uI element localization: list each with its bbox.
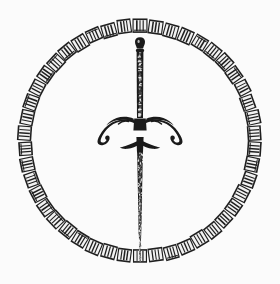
grip-wrap-mark [138,103,142,104]
blade-speckle-mark [139,189,140,190]
ring-segment [247,125,262,141]
blade-speckle-mark [139,227,140,228]
pommel [135,37,145,52]
blade-speckle-mark [140,188,141,189]
blade-speckle-mark [140,231,141,232]
blade-speckle-mark [141,153,142,155]
blade-speckle-mark [140,229,141,230]
blade-speckle-mark [140,248,141,249]
blade-speckle-mark [140,181,141,182]
blade-speckle-mark [139,184,140,185]
blade-speckle-mark [142,161,143,163]
blade-speckle-mark [142,159,143,160]
blade-speckle-mark [141,216,142,218]
grip-wrap-mark [139,74,141,75]
grip-wrap-mark [138,115,141,117]
grip-wrap-mark [139,62,142,63]
blade-speckle-mark [138,208,139,210]
blade-speckle-mark [139,224,140,225]
grip-wrap-mark [139,98,142,99]
blade-speckle-mark [140,253,141,255]
grip-wrap-mark [138,60,140,61]
grip-wrap-mark [139,75,141,76]
blade-speckle-mark [140,203,141,204]
blade-speckle-mark [140,241,141,242]
blade-speckle-mark [139,244,140,245]
blade-speckle-mark [141,214,142,215]
grip-wrap-mark [139,107,141,108]
blade-speckle-mark [140,205,141,206]
blade-speckle-mark [138,186,139,187]
blade-speckle-mark [138,178,139,179]
blade-speckle-mark [139,217,140,218]
blade-speckle-mark [140,182,141,183]
blade-speckle-mark [140,247,141,249]
blade-speckle-mark [139,215,140,216]
blade-speckle-mark [140,211,141,212]
blade-speckle-mark [138,167,139,168]
grip-wrap-mark [139,78,141,79]
blade-speckle-mark [139,156,140,157]
blade-speckle-mark [138,173,139,174]
blade-speckle-mark [138,175,139,176]
grip-wrap-mark [139,95,141,96]
blade-speckle-mark [140,174,141,175]
grip-wrap-mark [139,67,140,68]
blade-speckle-mark [141,222,142,224]
blade-speckle-mark [138,170,139,171]
segment-stripe [143,20,144,31]
blade-speckle-mark [139,230,140,232]
blade-speckle-mark [141,200,142,201]
grip-wrap-mark [139,68,143,69]
blade-speckle-mark [139,233,140,234]
blade-speckle-mark [138,183,139,184]
blade-speckle-mark [142,175,143,176]
emblem-canvas [0,0,280,284]
blade-speckle-mark [139,195,140,196]
blade-speckle-mark [140,173,141,174]
blade-speckle-mark [142,154,143,156]
blade-speckle-mark [141,162,142,163]
blade-speckle-mark [141,164,142,166]
grip-wrap-mark [139,96,141,97]
segment-tie-bar [134,30,146,31]
blade-speckle-mark [141,198,142,200]
segment-stripe [137,251,138,261]
grip-wrap-mark [139,108,141,109]
sword-in-circle-illustration [0,0,280,284]
blade-speckle-mark [138,191,139,192]
ring-segment [147,247,164,263]
blade-speckle-mark [139,200,140,201]
ring-segment [244,109,261,126]
blade-speckle-mark [138,192,139,194]
grip-wrap-mark [139,76,141,77]
grip-wrap-mark [139,63,141,64]
blade-speckle-mark [140,193,141,194]
blade-speckle-mark [141,168,142,169]
blade-speckle-mark [139,181,140,182]
blade-speckle-mark [139,176,140,178]
ring-segment [116,18,132,34]
grip-wrap-mark [138,97,141,98]
segment-stripe [136,20,138,31]
blade-speckle-mark [140,166,141,168]
blade-speckle-mark [140,226,141,227]
blade-speckle-mark [140,162,141,164]
blade-speckle-mark [139,261,140,262]
grip-wrap-mark [138,87,140,88]
ring-segment [132,18,147,32]
blade-speckle-mark [138,214,139,215]
blade-speckle-mark [142,163,143,164]
blade-speckle-mark [141,157,142,159]
blade-speckle-mark [137,156,138,158]
blade-speckle-mark [139,167,140,168]
blade-speckle-mark [140,209,141,210]
blade-speckle-mark [141,192,142,194]
grip-wrap-mark [138,71,141,72]
blade-speckle-mark [138,199,139,200]
blade-speckle-mark [140,228,141,229]
grip-wrap-mark [139,89,142,90]
ring-segment [19,156,36,173]
grip-wrap-mark [139,73,141,74]
blade-speckle-mark [139,201,140,202]
